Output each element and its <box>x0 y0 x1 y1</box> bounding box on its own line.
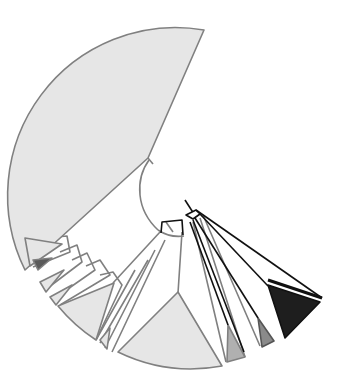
clade-bottom-large <box>118 292 222 369</box>
branch-arc-3 <box>166 222 173 232</box>
clade-left-2 <box>33 258 52 270</box>
root-arc <box>140 160 158 230</box>
clade-large-top <box>8 28 204 270</box>
clade-black <box>268 285 320 338</box>
clade-left-3 <box>40 270 64 292</box>
clade-grey-2 <box>258 318 274 347</box>
black-branch-1 <box>196 210 322 298</box>
phylogenetic-tree <box>0 0 344 391</box>
